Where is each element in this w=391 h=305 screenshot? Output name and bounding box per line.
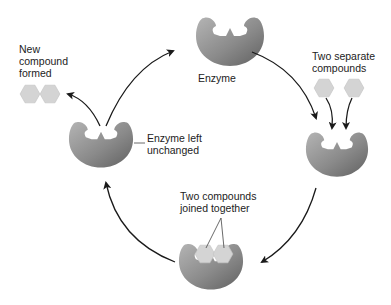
enzyme-right: [306, 133, 368, 177]
enzyme-top: [196, 18, 264, 66]
label-enzyme-unchanged: Enzyme left unchanged: [147, 132, 202, 156]
arrow-left-to-top: [106, 51, 173, 126]
label-enzyme: Enzyme: [198, 72, 236, 84]
enzyme-left: [69, 122, 145, 168]
new-compound: [20, 85, 60, 103]
arrow-compound2-in: [346, 98, 352, 128]
separate-compounds: [314, 79, 364, 97]
arrow-compound1-in: [326, 98, 332, 128]
arrow-top-to-right: [252, 52, 316, 118]
label-new-compound: New compound formed: [19, 43, 68, 79]
label-joined-together: Two compounds joined together: [180, 190, 256, 214]
label-two-separate-compounds: Two separate compounds: [312, 50, 375, 74]
enzyme-cycle-diagram: Enzyme Two separate compounds Two compou…: [0, 0, 391, 305]
arrow-left-to-product: [68, 94, 100, 126]
enzyme-bottom: [179, 218, 243, 290]
arrow-right-to-bottom: [262, 188, 316, 262]
arrow-bottom-to-left: [106, 183, 175, 262]
